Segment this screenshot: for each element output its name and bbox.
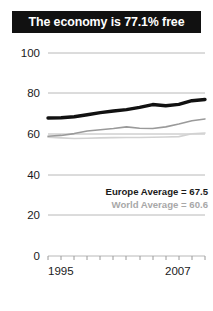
chart-container: The economy is 77.1% free [0, 0, 213, 311]
x-axis-label-start: 1995 [48, 266, 74, 278]
y-axis-label-20: 20 [2, 210, 40, 222]
y-axis-label-0: 0 [2, 251, 40, 263]
y-axis-label-100: 100 [2, 48, 40, 60]
y-axis-label-40: 40 [2, 170, 40, 182]
x-axis-label-end: 2007 [165, 266, 191, 278]
y-axis-label-60: 60 [2, 129, 40, 141]
legend-item-europe-average: Europe Average = 67.5 [96, 185, 208, 198]
y-axis-label-80: 80 [2, 88, 40, 100]
series-line-country [48, 99, 205, 117]
x-axis-ticks [48, 256, 205, 260]
gridlines [48, 53, 205, 256]
chart-legend: Europe Average = 67.5 World Average = 60… [96, 185, 208, 211]
legend-item-world-average: World Average = 60.6 [96, 198, 208, 211]
